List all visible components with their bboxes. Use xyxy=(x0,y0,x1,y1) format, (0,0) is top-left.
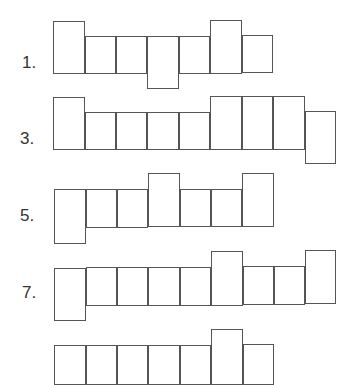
net-square xyxy=(210,20,242,74)
net-square xyxy=(211,329,243,385)
net-square xyxy=(210,96,242,150)
net-square xyxy=(117,267,148,306)
figure-label-7: 7. xyxy=(22,284,36,301)
net-square xyxy=(117,345,148,385)
net-square xyxy=(86,267,117,306)
net-square xyxy=(54,345,86,385)
net-square xyxy=(53,97,85,150)
net-square xyxy=(179,36,210,74)
net-square xyxy=(85,112,116,150)
net-square xyxy=(53,21,85,74)
net-square xyxy=(147,112,179,150)
net-square xyxy=(148,173,180,227)
net-square xyxy=(54,189,86,244)
net-square xyxy=(243,344,274,385)
net-square xyxy=(147,36,179,89)
figure-label-1: 1. xyxy=(22,54,36,71)
net-square xyxy=(86,345,117,385)
net-square xyxy=(274,266,305,305)
figure-label-5: 5. xyxy=(20,207,34,224)
net-square xyxy=(86,189,117,228)
net-square xyxy=(116,36,147,74)
net-square xyxy=(242,173,274,227)
net-square xyxy=(211,251,243,306)
net-square xyxy=(85,36,116,74)
net-square xyxy=(148,345,180,385)
net-square xyxy=(117,189,148,228)
net-square xyxy=(243,266,274,305)
net-square xyxy=(116,112,147,150)
net-square xyxy=(180,189,211,227)
net-square xyxy=(305,111,336,164)
net-square xyxy=(180,267,211,306)
net-square xyxy=(242,35,273,73)
net-square xyxy=(211,189,242,227)
net-square xyxy=(273,96,305,150)
figure-label-3: 3. xyxy=(20,130,34,147)
net-square xyxy=(180,345,211,385)
net-square xyxy=(148,267,180,306)
net-square xyxy=(54,268,86,321)
net-square xyxy=(305,250,336,304)
net-square xyxy=(179,112,210,150)
net-square xyxy=(242,96,273,150)
